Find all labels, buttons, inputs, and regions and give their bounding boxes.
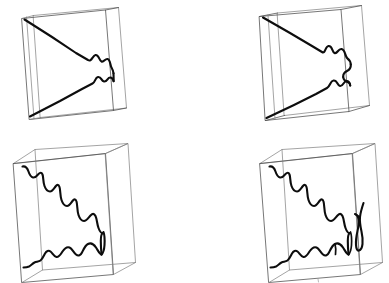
crack-sawtooth-main-c [23,166,104,233]
panel-deep-box-zigzag-cracks [0,141,195,283]
crack-arcade-lower-c [24,243,102,267]
box-top-face-d [260,144,375,164]
crack-upper-branch-a [25,20,114,74]
crack-mid-lobe-b [343,65,351,78]
box-top-face-c [14,144,129,164]
panel-a-canvas [0,0,195,142]
box-front-face-b [260,10,350,121]
panel-c-canvas [0,141,195,283]
box-inner-bottom-edge-d [269,263,383,283]
box-right-face-c [106,144,136,275]
box-inner-left-edge-d [282,150,290,271]
crack-upper-branch-b [263,18,351,65]
panel-d-canvas [194,141,389,283]
crack-arcade-lower-d [271,243,349,267]
figure-root [0,0,389,283]
box-inner-left-edge-c [35,150,43,271]
panel-thin-slab-wedge-front [0,0,195,142]
panel-b-canvas [194,0,389,142]
crack-arcade-stub-d [335,244,336,255]
panel-deep-box-zigzag-cracks-with-loop [194,141,389,283]
stray-tick-mark-d [318,279,319,282]
box-inner-left-edge-a [27,17,35,119]
box-inner-left-edge-b [268,15,275,119]
box-inner-bottom-edge-c [22,263,136,283]
box-back-face-b [278,6,370,116]
panel-thick-slab-wedge-front [194,0,389,142]
crack-sawtooth-main-d [270,166,351,233]
box-right-face-d [353,144,383,275]
